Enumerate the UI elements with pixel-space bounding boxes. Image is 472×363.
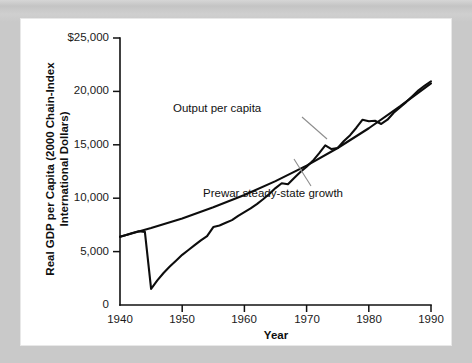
series-line-output-per-capita (120, 81, 431, 289)
x-tick-label-1980: 1980 (345, 313, 393, 325)
annotation-prewar-steady-state-growth: Prewar steady-state growth (203, 187, 343, 199)
x-tick-label-1940: 1940 (96, 313, 144, 325)
annotation-output-per-capita: Output per capita (173, 102, 261, 114)
y-axis-title-line2: International Dollars) (58, 111, 70, 226)
chart-card: $25,000 20,000 15,000 10,000 5,000 0 194… (21, 19, 451, 345)
axes-group (120, 38, 431, 305)
x-axis-title: Year (176, 329, 376, 341)
leader-line-output-per-capita (302, 117, 327, 139)
x-tick-label-1960: 1960 (220, 313, 268, 325)
y-axis-title-line1: Real GDP per Capita (2000 Chain-Index (44, 62, 56, 275)
y-tick-marks (113, 38, 120, 252)
x-tick-marks (182, 305, 431, 312)
y-tick-label-25000: $25,000 (31, 31, 109, 43)
x-tick-label-1970: 1970 (283, 313, 331, 325)
chart-plot-area (21, 19, 451, 345)
leader-line-prewar-steady-state-growth (294, 159, 311, 186)
x-tick-label-1990: 1990 (407, 313, 455, 325)
figure-frame: $25,000 20,000 15,000 10,000 5,000 0 194… (0, 0, 472, 363)
series-line-prewar-steady-state-growth (120, 83, 431, 236)
y-tick-label-0: 0 (31, 298, 109, 310)
y-axis-title: Real GDP per Capita (2000 Chain-Index In… (43, 44, 71, 294)
x-tick-label-1950: 1950 (158, 313, 206, 325)
